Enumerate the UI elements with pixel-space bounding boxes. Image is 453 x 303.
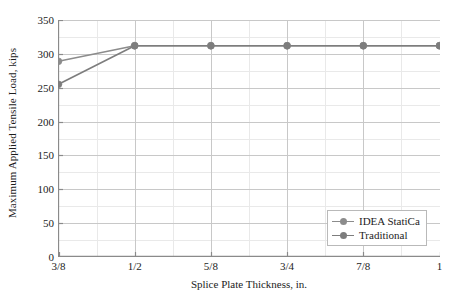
legend-item-idea-statica[interactable]: IDEA StatiCa bbox=[332, 214, 420, 228]
chart-legend: IDEA StatiCa Traditional bbox=[327, 210, 427, 246]
x-tick-label: 5/8 bbox=[204, 260, 218, 272]
legend-marker-icon-series-2 bbox=[332, 230, 354, 240]
legend-label-series-2: Traditional bbox=[359, 228, 408, 242]
y-tick-label: 250 bbox=[38, 82, 55, 94]
y-tick-label: 200 bbox=[38, 116, 55, 128]
legend-item-traditional[interactable]: Traditional bbox=[332, 228, 420, 242]
x-tick-label: 3/8 bbox=[51, 260, 65, 272]
y-tick-label: 50 bbox=[43, 217, 54, 229]
x-tick-label: 3/4 bbox=[280, 260, 294, 272]
y-axis-title-text: Maximum Applied Tensile Load, kips bbox=[6, 47, 18, 217]
x-tick-label: 1 bbox=[437, 260, 443, 272]
y-tick-label: 100 bbox=[38, 183, 55, 195]
y-axis-title: Maximum Applied Tensile Load, kips bbox=[0, 0, 24, 265]
x-tick-label: 7/8 bbox=[356, 260, 370, 272]
legend-label-series-1: IDEA StatiCa bbox=[359, 214, 420, 228]
chart-container: Maximum Applied Tensile Load, kips 05010… bbox=[0, 0, 453, 303]
x-axis-title: Splice Plate Thickness, in. bbox=[58, 278, 440, 290]
x-axis-tick-labels: 3/81/25/83/47/81 bbox=[58, 260, 440, 276]
y-tick-label: 150 bbox=[38, 149, 55, 161]
legend-marker-icon-series-1 bbox=[332, 216, 354, 226]
y-tick-label: 350 bbox=[38, 14, 55, 26]
y-axis-tick-labels: 050100150200250300350 bbox=[24, 20, 54, 257]
x-tick-label: 1/2 bbox=[128, 260, 142, 272]
y-tick-label: 300 bbox=[38, 48, 55, 60]
x-axis-title-text: Splice Plate Thickness, in. bbox=[191, 278, 307, 290]
